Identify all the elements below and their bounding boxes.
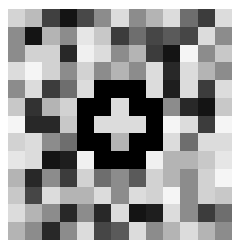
mosaic-cell <box>42 169 59 187</box>
mosaic-cell <box>129 98 146 116</box>
mosaic-cell <box>163 187 180 205</box>
mosaic-cell <box>60 80 77 98</box>
mosaic-cell <box>163 45 180 63</box>
mosaic-cell <box>77 27 94 45</box>
mosaic-cell <box>146 98 163 116</box>
mosaic-cell <box>215 169 232 187</box>
mosaic-cell <box>77 133 94 151</box>
mosaic-cell <box>77 187 94 205</box>
mosaic-cell <box>8 187 25 205</box>
mosaic-cell <box>25 116 42 134</box>
mosaic-cell <box>25 98 42 116</box>
mosaic-cell <box>215 80 232 98</box>
mosaic-cell <box>129 169 146 187</box>
mosaic-cell <box>163 9 180 27</box>
mosaic-cell <box>129 27 146 45</box>
mosaic-cell <box>94 169 111 187</box>
mosaic-cell <box>42 133 59 151</box>
mosaic-cell <box>198 169 215 187</box>
mosaic-cell <box>94 62 111 80</box>
mosaic-cell <box>180 187 197 205</box>
mosaic-cell <box>215 116 232 134</box>
mosaic-cell <box>42 45 59 63</box>
mosaic-cell <box>129 222 146 240</box>
mosaic-cell <box>60 62 77 80</box>
mosaic-cell <box>180 62 197 80</box>
mosaic-cell <box>42 27 59 45</box>
mosaic-cell <box>198 27 215 45</box>
mosaic-cell <box>77 98 94 116</box>
mosaic-cell <box>111 133 128 151</box>
mosaic-cell <box>94 187 111 205</box>
mosaic-cell <box>180 222 197 240</box>
mosaic-cell <box>180 27 197 45</box>
mosaic-cell <box>94 222 111 240</box>
mosaic-cell <box>180 116 197 134</box>
mosaic-cell <box>215 133 232 151</box>
mosaic-cell <box>180 151 197 169</box>
mosaic-cell <box>77 62 94 80</box>
mosaic-cell <box>180 204 197 222</box>
mosaic-cell <box>198 80 215 98</box>
mosaic-cell <box>129 45 146 63</box>
mosaic-cell <box>111 27 128 45</box>
mosaic-cell <box>8 151 25 169</box>
mosaic-cell <box>111 80 128 98</box>
mosaic-cell <box>77 151 94 169</box>
mosaic-cell <box>163 116 180 134</box>
mosaic-cell <box>25 187 42 205</box>
pixel-mosaic <box>8 9 232 240</box>
mosaic-cell <box>180 133 197 151</box>
mosaic-cell <box>8 222 25 240</box>
mosaic-cell <box>215 27 232 45</box>
mosaic-cell <box>198 204 215 222</box>
mosaic-cell <box>8 80 25 98</box>
mosaic-cell <box>111 187 128 205</box>
mosaic-cell <box>111 62 128 80</box>
mosaic-cell <box>163 222 180 240</box>
mosaic-cell <box>77 169 94 187</box>
mosaic-cell <box>8 62 25 80</box>
mosaic-cell <box>111 116 128 134</box>
mosaic-cell <box>129 151 146 169</box>
mosaic-cell <box>163 27 180 45</box>
mosaic-cell <box>77 222 94 240</box>
mosaic-cell <box>129 187 146 205</box>
mosaic-cell <box>111 222 128 240</box>
mosaic-cell <box>146 151 163 169</box>
mosaic-cell <box>146 204 163 222</box>
mosaic-cell <box>77 116 94 134</box>
mosaic-cell <box>198 116 215 134</box>
mosaic-cell <box>146 9 163 27</box>
mosaic-cell <box>129 9 146 27</box>
mosaic-cell <box>77 80 94 98</box>
mosaic-cell <box>94 27 111 45</box>
mosaic-cell <box>8 27 25 45</box>
mosaic-cell <box>111 45 128 63</box>
mosaic-cell <box>129 80 146 98</box>
mosaic-cell <box>94 45 111 63</box>
mosaic-cell <box>129 133 146 151</box>
mosaic-cell <box>60 116 77 134</box>
mosaic-cell <box>146 222 163 240</box>
mosaic-cell <box>146 116 163 134</box>
mosaic-cell <box>129 62 146 80</box>
mosaic-cell <box>8 204 25 222</box>
mosaic-cell <box>25 222 42 240</box>
mosaic-cell <box>215 151 232 169</box>
mosaic-cell <box>8 116 25 134</box>
mosaic-cell <box>163 151 180 169</box>
mosaic-cell <box>25 45 42 63</box>
mosaic-cell <box>215 187 232 205</box>
mosaic-cell <box>94 9 111 27</box>
mosaic-cell <box>94 116 111 134</box>
mosaic-cell <box>25 133 42 151</box>
mosaic-cell <box>25 27 42 45</box>
mosaic-cell <box>163 169 180 187</box>
mosaic-cell <box>42 62 59 80</box>
mosaic-cell <box>42 204 59 222</box>
mosaic-cell <box>198 151 215 169</box>
mosaic-cell <box>146 62 163 80</box>
mosaic-cell <box>60 45 77 63</box>
mosaic-cell <box>60 133 77 151</box>
